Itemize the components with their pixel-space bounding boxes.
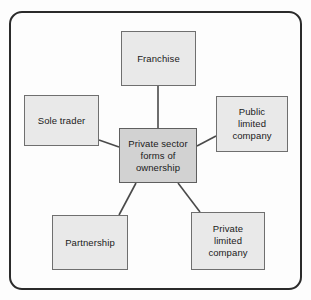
node-center-line-3: ownership [136,162,180,173]
node-center-label: Private sector forms of ownership [120,138,196,174]
connector-center-public-limited-company [197,136,216,146]
diagram-canvas: Franchise Sole trader Public limited com… [0,0,311,300]
node-center-line-1: Private sector [128,138,187,149]
connector-center-partnership [119,183,136,215]
node-center-line-2: forms of [140,150,175,161]
node-public-limited-company-label: Public limited company [217,106,287,142]
node-franchise[interactable]: Franchise [121,31,196,86]
connector-center-private-limited-company [178,183,200,212]
node-franchise-label: Franchise [122,53,195,65]
node-private-limited-company-label: Private limited company [192,223,264,259]
node-public-limited-company-line-3: company [232,130,271,141]
node-partnership-label: Partnership [53,237,127,249]
node-public-limited-company-line-1: Public [239,106,265,117]
node-private-limited-company-line-1: Private [213,223,243,234]
node-partnership[interactable]: Partnership [52,215,128,270]
node-center-private-sector-forms-of-ownership[interactable]: Private sector forms of ownership [119,128,197,183]
node-public-limited-company-line-2: limited [238,118,266,129]
node-private-limited-company-line-3: company [208,247,247,258]
node-public-limited-company[interactable]: Public limited company [216,96,288,152]
node-private-limited-company-line-2: limited [214,235,242,246]
node-sole-trader-label: Sole trader [25,115,98,127]
connector-center-sole-trader [99,140,119,147]
node-sole-trader[interactable]: Sole trader [24,95,99,146]
node-private-limited-company[interactable]: Private limited company [191,212,265,270]
